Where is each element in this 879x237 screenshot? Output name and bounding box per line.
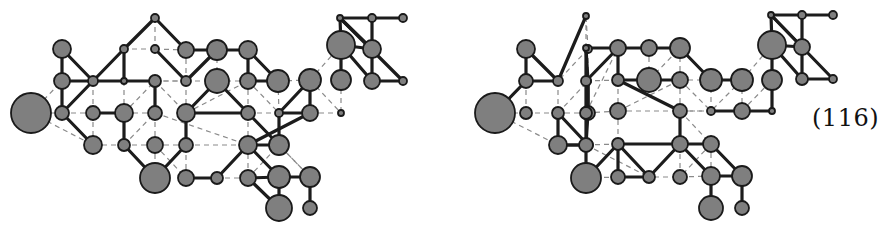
- graph-node: [673, 104, 687, 118]
- graph-node: [672, 72, 688, 88]
- graph-node: [610, 103, 626, 119]
- graph-node: [148, 106, 162, 120]
- graph-node: [670, 38, 690, 58]
- graph-node: [553, 76, 563, 86]
- graph-node: [673, 170, 687, 184]
- graph-node: [239, 136, 257, 154]
- graph-node: [583, 13, 589, 19]
- graph-node: [732, 166, 752, 186]
- graph-node: [178, 42, 194, 58]
- graph-node: [829, 75, 837, 83]
- graph-node: [88, 76, 98, 86]
- graph-node: [731, 69, 753, 91]
- graph-node: [368, 14, 376, 22]
- graph-node: [118, 139, 130, 151]
- graph-node: [571, 163, 601, 193]
- graph-node: [11, 93, 51, 133]
- graph-node: [612, 74, 624, 86]
- graph-node: [399, 14, 407, 22]
- left-graph-nodes: [11, 14, 407, 221]
- graph-node: [707, 107, 715, 115]
- right-graph-nodes: [475, 11, 837, 220]
- graph-node: [121, 78, 127, 84]
- graph-node: [240, 73, 256, 89]
- graph-node: [552, 107, 564, 119]
- graph-node: [302, 105, 318, 121]
- solid-edge: [558, 16, 586, 81]
- graph-node: [703, 136, 719, 152]
- solid-edge: [124, 18, 155, 49]
- graph-node: [641, 40, 657, 56]
- right-graph: [475, 11, 837, 220]
- graph-node: [798, 11, 806, 19]
- graph-node: [637, 68, 661, 92]
- graph-node: [610, 40, 626, 56]
- graph-node: [54, 73, 70, 89]
- graph-node: [151, 14, 159, 22]
- graph-node: [267, 70, 289, 92]
- graph-node: [549, 136, 567, 154]
- graph-node: [178, 170, 194, 186]
- graph-node: [579, 138, 593, 152]
- graph-node: [207, 40, 227, 60]
- graph-node: [475, 93, 515, 133]
- graph-node: [331, 70, 351, 90]
- left-graph: [11, 14, 407, 221]
- graph-node: [327, 31, 355, 59]
- graph-node: [611, 170, 625, 184]
- graph-node: [364, 73, 380, 89]
- graph-node: [762, 70, 782, 90]
- graph-node: [702, 167, 720, 185]
- graph-node: [399, 77, 407, 85]
- graph-node: [299, 69, 321, 91]
- graph-node: [269, 135, 289, 155]
- graph-node: [734, 103, 750, 119]
- graph-node: [239, 41, 257, 59]
- graph-node: [84, 136, 102, 154]
- graph-node: [147, 137, 163, 153]
- equation-number: (116): [812, 104, 879, 132]
- graph-node: [53, 40, 71, 58]
- graph-node: [583, 45, 589, 51]
- graph-node: [55, 106, 69, 120]
- solid-edge: [93, 49, 124, 81]
- graph-node: [181, 76, 191, 86]
- graph-node: [266, 195, 292, 221]
- graph-node: [140, 163, 170, 193]
- graph-node: [177, 104, 195, 122]
- graph-node: [179, 138, 193, 152]
- graph-node: [240, 170, 256, 186]
- graph-node: [303, 201, 317, 215]
- graph-node: [211, 172, 223, 184]
- graph-node: [115, 104, 133, 122]
- graph-node: [86, 106, 100, 120]
- graph-node: [517, 40, 535, 58]
- graph-node: [337, 15, 343, 21]
- graph-node: [363, 40, 381, 58]
- graph-node: [768, 12, 774, 18]
- graph-node: [612, 138, 624, 150]
- graph-node: [643, 171, 655, 183]
- graph-node: [241, 106, 255, 120]
- graph-node: [699, 196, 723, 220]
- graph-node: [275, 109, 283, 117]
- graph-node: [796, 73, 808, 85]
- graph-node: [268, 166, 290, 188]
- graph-node: [794, 39, 810, 55]
- graph-node: [151, 45, 159, 53]
- graph-node: [519, 74, 533, 88]
- graph-node: [149, 75, 161, 87]
- graph-node: [205, 69, 229, 93]
- graph-node: [120, 45, 128, 53]
- graph-node: [672, 136, 688, 152]
- graph-node: [829, 11, 837, 19]
- graph-node: [520, 107, 532, 119]
- dashed-edge: [155, 113, 248, 145]
- graph-node: [735, 201, 749, 215]
- graph-node: [581, 76, 591, 86]
- graph-node: [300, 167, 320, 187]
- right-graph-dashed-edges: [495, 16, 772, 178]
- graph-node: [758, 31, 786, 59]
- graph-node: [580, 107, 592, 119]
